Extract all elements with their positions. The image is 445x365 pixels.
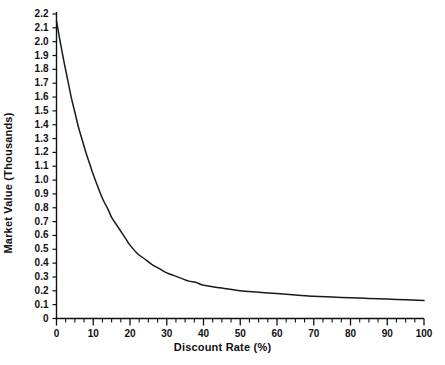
- x-tick-label: 50: [225, 328, 255, 339]
- y-tick-label: 0: [19, 313, 49, 324]
- y-tick-label: 1.8: [19, 63, 49, 74]
- y-tick-label: 0.7: [19, 216, 49, 227]
- y-tick-label: 1.0: [19, 174, 49, 185]
- y-tick-label: 2.1: [19, 22, 49, 33]
- y-tick-label: 1.4: [19, 119, 49, 130]
- x-tick-label: 0: [42, 328, 72, 339]
- x-axis-title: Discount Rate (%): [0, 341, 445, 353]
- x-tick-label: 60: [262, 328, 292, 339]
- chart-container: Market Value (Thousands) 00.10.20.30.40.…: [0, 0, 445, 365]
- axis-lines: [56, 12, 424, 319]
- x-tick-label: 30: [152, 328, 182, 339]
- y-tick-label: 0.9: [19, 188, 49, 199]
- y-tick-label: 2.0: [19, 36, 49, 47]
- plot-area: [0, 0, 445, 365]
- y-tick-label: 1.6: [19, 91, 49, 102]
- y-tick-label: 1.9: [19, 50, 49, 61]
- y-tick-label: 0.2: [19, 285, 49, 296]
- x-tick-label: 100: [409, 328, 439, 339]
- y-tick-label: 1.2: [19, 146, 49, 157]
- y-tick-label: 2.2: [19, 8, 49, 19]
- x-tick-label: 90: [372, 328, 402, 339]
- y-tick-label: 1.7: [19, 77, 49, 88]
- x-tick-label: 70: [299, 328, 329, 339]
- y-tick-label: 0.3: [19, 271, 49, 282]
- y-tick-label: 0.8: [19, 202, 49, 213]
- y-tick-label: 1.5: [19, 105, 49, 116]
- x-tick-label: 40: [189, 328, 219, 339]
- x-tick-label: 20: [115, 328, 145, 339]
- data-series-line: [57, 21, 425, 301]
- x-tick-label: 80: [336, 328, 366, 339]
- y-tick-label: 0.1: [19, 299, 49, 310]
- x-tick-label: 10: [78, 328, 108, 339]
- y-tick-label: 0.5: [19, 243, 49, 254]
- y-tick-label: 1.1: [19, 160, 49, 171]
- y-tick-label: 0.6: [19, 229, 49, 240]
- y-tick-label: 0.4: [19, 257, 49, 268]
- x-axis-title-text: Discount Rate (%): [174, 341, 272, 353]
- y-tick-label: 1.3: [19, 133, 49, 144]
